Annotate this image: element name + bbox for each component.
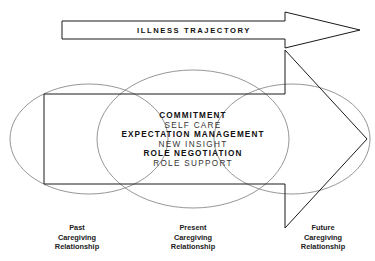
future-label-line-3: Relationship [301,242,346,251]
present-label-line-2: Caregiving [174,233,213,242]
past-label-line-2: Caregiving [58,233,97,242]
concept-role-support: ROLE SUPPORT [153,159,233,168]
future-label-line-1: Future [312,223,335,232]
concept-self-care: SELF CARE [164,121,221,130]
past-label-line-1: Past [69,223,85,232]
past-label-line-3: Relationship [55,242,100,251]
past-relationship-label: Past Caregiving Relationship [55,223,100,251]
illness-trajectory-label: ILLNESS TRAJECTORY [137,26,251,35]
concept-new-insight: NEW INSIGHT [159,140,228,149]
future-relationship-circle [214,84,370,194]
future-relationship-label: Future Caregiving Relationship [301,223,346,251]
present-label-line-3: Relationship [171,242,216,251]
present-label-line-1: Present [179,223,207,232]
concept-commitment: COMMITMENT [159,111,226,120]
future-label-line-2: Caregiving [304,233,343,242]
present-relationship-label: Present Caregiving Relationship [171,223,216,251]
past-relationship-circle [10,84,168,194]
concept-expectation-management: EXPECTATION MANAGEMENT [121,130,264,139]
concept-role-negotiation: ROLE NEGOTIATION [144,149,243,158]
diagram-canvas: ILLNESS TRAJECTORY COMMITMENT SELF CARE … [0,0,375,261]
